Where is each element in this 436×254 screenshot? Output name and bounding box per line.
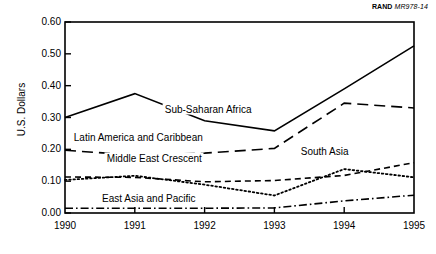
series-label-1: Latin America and Caribbean (72, 132, 205, 143)
chart-figure: RANDMR978-14 U.S. Dollars 0.000.100.200.… (0, 0, 436, 254)
series-label-2: Middle East Crescent (105, 153, 204, 164)
series-line-0 (65, 46, 414, 131)
series-label-4: East Asia and Pacific (100, 193, 197, 204)
plot-frame (65, 22, 414, 213)
series-line-3 (65, 169, 414, 195)
series-label-0: Sub-Saharan Africa (163, 103, 254, 114)
plot-area (0, 0, 436, 254)
series-line-2 (65, 163, 414, 182)
series-label-3: South Asia (299, 145, 351, 156)
